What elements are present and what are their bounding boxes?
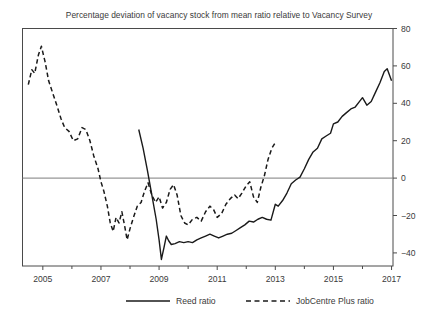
legend-item-reed-ratio: Reed ratio	[126, 296, 216, 306]
y-tick-label: 0	[401, 173, 406, 183]
x-axis-tick-labels: 2005200720092011201320152017	[33, 274, 401, 284]
plot-frame	[23, 29, 394, 267]
y-tick-label: 80	[401, 24, 411, 34]
y-axis-tick-labels: −40−20020406080	[401, 24, 416, 258]
legend-label: Reed ratio	[176, 296, 216, 306]
chart-plot-svg: 2005200720092011201320152017 −40−2002040…	[0, 0, 438, 320]
series-line-jobcentre-plus-ratio	[28, 46, 275, 240]
y-tick-label: −20	[401, 211, 416, 221]
y-tick-label: 20	[401, 136, 411, 146]
x-tick-label: 2005	[33, 274, 52, 284]
y-tick-label: 40	[401, 98, 411, 108]
y-tick-label: −40	[401, 248, 416, 258]
legend-item-jobcentre-plus-ratio: JobCentre Plus ratio	[246, 296, 374, 306]
x-tick-label: 2007	[91, 274, 110, 284]
x-tick-label: 2015	[324, 274, 343, 284]
legend-label: JobCentre Plus ratio	[296, 296, 374, 306]
x-tick-label: 2009	[150, 274, 169, 284]
data-series-layer	[28, 46, 391, 259]
axis-ticks	[43, 29, 397, 271]
x-tick-label: 2011	[208, 274, 227, 284]
y-tick-label: 60	[401, 61, 411, 71]
chart-container: Percentage deviation of vacancy stock fr…	[0, 0, 438, 320]
chart-legend: Reed ratioJobCentre Plus ratio	[126, 296, 374, 306]
x-tick-label: 2013	[266, 274, 285, 284]
series-line-reed-ratio	[139, 69, 392, 260]
x-tick-label: 2017	[382, 274, 401, 284]
